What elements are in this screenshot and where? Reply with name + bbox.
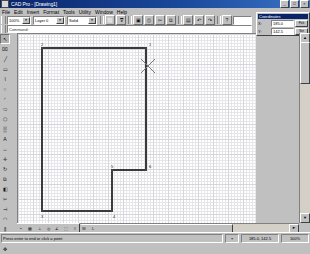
copy-object-icon[interactable]: ⧉ (0, 174, 10, 184)
menu-item-tools[interactable]: Tools (61, 9, 77, 15)
move-icon[interactable]: ✛ (0, 154, 10, 164)
window-title: CAD Pro - [Drawing1] (11, 1, 280, 7)
help-icon[interactable]: ? (222, 15, 232, 25)
toolbar-separator (128, 16, 132, 24)
circle-icon[interactable]: ○ (0, 84, 10, 94)
menu-item-utility[interactable]: Utility (77, 9, 93, 15)
line-icon[interactable]: ╱ (0, 54, 10, 64)
extend-icon[interactable]: ⊣ (0, 204, 10, 214)
app-icon (1, 0, 9, 8)
status-zoom: 100% (281, 234, 309, 243)
drawing-tools-toolbar: ↖ ⌧ ╱ ▭ ⌇ ○ ◜ ⬭ ⬡ ▒ A ↔ ✛ ↻ ⧉ ◧ ✂ ⊣ ◠ ⫼ … (0, 33, 18, 224)
status-message: Press enter to end or click a point (1, 234, 223, 243)
coordinates-panel-title: Coordinates (258, 14, 308, 19)
text-icon[interactable]: A (0, 134, 10, 144)
minimize-button[interactable]: _ (280, 0, 289, 8)
crosshair-cursor (18, 34, 256, 224)
linetype-combo[interactable]: Solid ▼ (67, 16, 97, 25)
pan-icon[interactable]: ✥ (0, 244, 10, 254)
zoom-combo[interactable]: 100% ▼ (7, 16, 31, 25)
drawing-canvas[interactable]: 123456 (17, 33, 256, 224)
snap-status-icon: ⌖ (225, 234, 239, 243)
vertical-scrollbar[interactable]: ▲ ▼ (299, 33, 310, 223)
menu-item-file[interactable]: File (0, 9, 12, 15)
x-field[interactable]: 185.0 (271, 20, 294, 27)
status-coordinates: 185.0, 142.5 (241, 234, 279, 243)
status-bar: Press enter to end or click a point ⌖ 18… (0, 232, 310, 243)
chevron-down-icon[interactable]: ▼ (56, 17, 64, 24)
mirror-icon[interactable]: ◧ (0, 184, 10, 194)
hatch-icon[interactable]: ▒ (0, 124, 10, 134)
undo-icon[interactable]: ↶ (194, 15, 204, 25)
close-button[interactable]: × (300, 0, 309, 8)
layer-combo-value: Layer 0 (34, 18, 48, 23)
window-buttons: _ □ × (280, 0, 309, 8)
toolbar-separator (100, 16, 104, 24)
menu-item-help[interactable]: Help (115, 9, 129, 15)
menu-item-window[interactable]: Window (93, 9, 115, 15)
layer-combo[interactable]: Layer 0 ▼ (33, 16, 65, 25)
toolbar-separator (178, 16, 182, 24)
new-file-icon[interactable]: ⬜ (105, 15, 115, 25)
polygon-icon[interactable]: ⬡ (0, 114, 10, 124)
toolbar-separator (217, 16, 221, 24)
trim-icon[interactable]: ✂ (0, 194, 10, 204)
select-arrow-icon[interactable]: ↖ (0, 34, 10, 44)
command-input[interactable] (233, 16, 252, 25)
toolbar-grip[interactable] (1, 25, 6, 33)
paste-icon[interactable]: ▤ (183, 15, 193, 25)
erase-icon[interactable]: ⌧ (0, 44, 10, 54)
rotate-icon[interactable]: ↻ (0, 164, 10, 174)
zoom-combo-value: 100% (8, 18, 19, 23)
maximize-button[interactable]: □ (290, 0, 299, 8)
redo-icon[interactable]: ↷ (205, 15, 215, 25)
linetype-combo-value: Solid (68, 18, 78, 23)
coordinate-row-x: X: 185.0 Pick (258, 20, 308, 27)
pick-button[interactable]: Pick (295, 20, 308, 27)
arc-icon[interactable]: ◜ (0, 94, 10, 104)
save-icon[interactable]: ▣ (133, 15, 143, 25)
print-icon[interactable]: ⎙ (144, 15, 154, 25)
chevron-down-icon[interactable]: ▼ (88, 17, 96, 24)
menu-item-edit[interactable]: Edit (12, 9, 25, 15)
copy-icon[interactable]: ⧉ (166, 15, 176, 25)
fillet-icon[interactable]: ◠ (0, 214, 10, 224)
dimension-icon[interactable]: ↔ (0, 144, 10, 154)
y-label: Y: (258, 29, 270, 34)
scroll-down-button[interactable]: ▼ (300, 213, 310, 223)
menu-item-format[interactable]: Format (41, 9, 61, 15)
x-label: X: (258, 21, 270, 26)
polyline-icon[interactable]: ⌇ (0, 74, 10, 84)
command-line-label: Command: (8, 27, 29, 32)
menu-item-insert[interactable]: Insert (25, 9, 42, 15)
open-file-icon[interactable]: ᐁ (116, 15, 126, 25)
rectangle-icon[interactable]: ▭ (0, 64, 10, 74)
vertical-scroll-thumb[interactable] (300, 42, 310, 84)
cut-icon[interactable]: ✂ (155, 15, 165, 25)
command-line-input[interactable]: Command: (7, 25, 252, 33)
chevron-down-icon[interactable]: ▼ (22, 17, 30, 24)
ellipse-icon[interactable]: ⬭ (0, 104, 10, 114)
toolbar-grip[interactable] (1, 16, 6, 24)
y-field[interactable]: 142.5 (271, 28, 294, 35)
title-bar: CAD Pro - [Drawing1] _ □ × (0, 0, 310, 8)
